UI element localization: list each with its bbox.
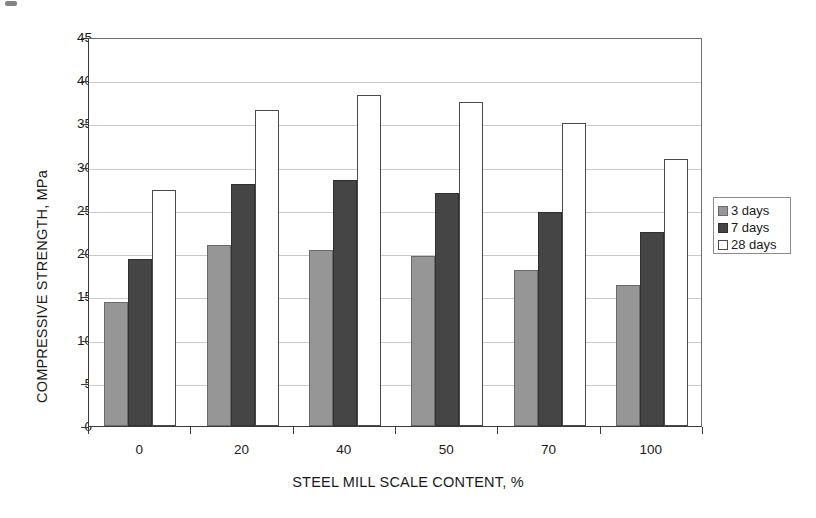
bar-3-days-0 xyxy=(104,302,128,426)
gridline xyxy=(89,169,701,170)
y-tick-mark xyxy=(81,341,88,342)
y-axis-title: COMPRESSIVE STRENGTH, MPa xyxy=(34,170,50,403)
x-tick-label: 20 xyxy=(207,443,277,457)
y-tick-mark xyxy=(81,211,88,212)
x-tick-label: 100 xyxy=(616,443,686,457)
bar-3-days-20 xyxy=(207,245,231,426)
y-tick-mark xyxy=(81,81,88,82)
y-tick-mark xyxy=(81,124,88,125)
y-tick-mark xyxy=(81,384,88,385)
legend-swatch-icon xyxy=(718,206,728,216)
bar-7-days-70 xyxy=(538,212,562,426)
legend-item-28-days: 28 days xyxy=(718,236,790,253)
x-tick-label: 50 xyxy=(411,443,481,457)
y-tick-mark xyxy=(81,427,88,428)
scan-artifact-speck xyxy=(5,1,17,6)
y-tick-mark xyxy=(81,254,88,255)
bar-28-days-20 xyxy=(255,110,279,426)
legend-swatch-icon xyxy=(718,223,728,233)
x-tick-mark xyxy=(497,427,498,434)
bar-7-days-100 xyxy=(640,232,664,427)
bar-3-days-70 xyxy=(514,270,538,426)
x-tick-label: 40 xyxy=(309,443,379,457)
bar-3-days-50 xyxy=(411,256,435,426)
x-tick-mark xyxy=(600,427,601,434)
y-tick-mark xyxy=(81,168,88,169)
x-tick-label: 0 xyxy=(104,443,174,457)
x-tick-mark xyxy=(702,427,703,434)
bar-chart: COMPRESSIVE STRENGTH, MPa STEEL MILL SCA… xyxy=(0,0,816,518)
y-tick-mark xyxy=(81,38,88,39)
legend-label: 28 days xyxy=(731,238,777,251)
legend: 3 days7 days28 days xyxy=(713,197,791,254)
bar-28-days-0 xyxy=(152,190,176,426)
bar-7-days-50 xyxy=(435,193,459,426)
bar-28-days-100 xyxy=(664,159,688,426)
x-tick-mark xyxy=(88,427,89,434)
bar-28-days-50 xyxy=(459,102,483,426)
x-tick-mark xyxy=(190,427,191,434)
gridline xyxy=(89,342,701,343)
legend-label: 3 days xyxy=(731,204,769,217)
x-axis-title: STEEL MILL SCALE CONTENT, % xyxy=(0,474,816,490)
x-tick-mark xyxy=(293,427,294,434)
y-tick-mark xyxy=(81,297,88,298)
gridline xyxy=(89,385,701,386)
bar-7-days-40 xyxy=(333,180,357,426)
bar-28-days-70 xyxy=(562,123,586,426)
bar-7-days-0 xyxy=(128,259,152,426)
gridline xyxy=(89,212,701,213)
bar-28-days-40 xyxy=(357,95,381,426)
legend-swatch-icon xyxy=(718,240,728,250)
x-tick-mark xyxy=(395,427,396,434)
legend-item-3-days: 3 days xyxy=(718,202,790,219)
gridline xyxy=(89,125,701,126)
gridline xyxy=(89,82,701,83)
gridline xyxy=(89,255,701,256)
x-tick-label: 70 xyxy=(514,443,584,457)
plot-area xyxy=(88,38,702,427)
bar-3-days-100 xyxy=(616,285,640,426)
legend-item-7-days: 7 days xyxy=(718,219,790,236)
bar-7-days-20 xyxy=(231,184,255,426)
legend-label: 7 days xyxy=(731,221,769,234)
bar-3-days-40 xyxy=(309,250,333,426)
gridline xyxy=(89,298,701,299)
